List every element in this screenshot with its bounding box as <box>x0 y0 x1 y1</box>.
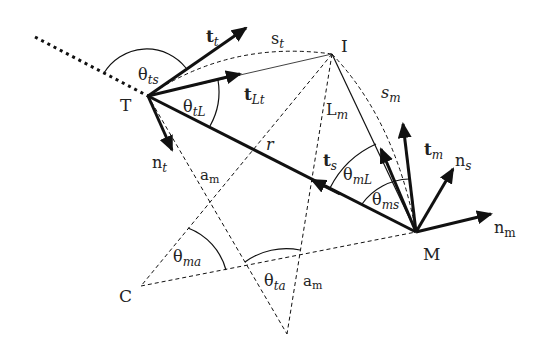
dashed-I-to-bottom <box>287 54 332 334</box>
label-theta-ta: θta <box>264 271 286 293</box>
label-theta-ma: θma <box>173 247 201 269</box>
label-theta-ms: θms <box>372 190 399 212</box>
dashed-I-to-C <box>141 54 332 286</box>
point-label-C: C <box>119 286 132 306</box>
label-L-m: Lm <box>326 100 348 122</box>
label-theta-tL: θtL <box>183 97 205 119</box>
label-theta-mL: θmL <box>343 165 372 187</box>
label-s-t: st <box>271 29 284 51</box>
label-r: r <box>266 135 275 154</box>
point-label-M: M <box>423 244 440 264</box>
vector-t-s <box>312 180 340 194</box>
label-a-m-lower: am <box>303 272 323 292</box>
target-trajectory-line <box>35 37 148 96</box>
label-theta-ts: θts <box>138 65 159 87</box>
arc-theta-tL <box>210 80 219 126</box>
label-a-m-upper: am <box>200 166 220 186</box>
label-t-Lt: tLt <box>244 84 265 107</box>
vector-n-m <box>416 214 491 232</box>
label-n-s: ns <box>455 151 471 173</box>
label-s-m: sm <box>381 83 401 105</box>
pursuit-geometry-diagram: T I M C tt st tLt nt Lm sm r am ts tm ns… <box>0 0 544 350</box>
label-n-t: nt <box>152 153 167 175</box>
vector-n-s <box>416 169 453 232</box>
point-label-I: I <box>341 36 348 56</box>
label-t-s: ts <box>323 150 337 173</box>
vector-n-t <box>148 96 172 150</box>
label-n-m: nm <box>494 218 516 240</box>
point-label-T: T <box>120 95 132 115</box>
label-t-m: tm <box>424 139 443 162</box>
label-t-t: tt <box>206 26 219 49</box>
